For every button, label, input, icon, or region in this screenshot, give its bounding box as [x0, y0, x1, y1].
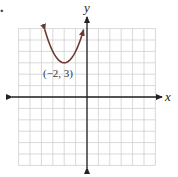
y-axis-label: y: [82, 0, 90, 15]
coordinate-graph: . x y (−2, 3): [0, 0, 178, 177]
x-axis-label: x: [164, 89, 171, 104]
problem-bullet: .: [0, 0, 4, 15]
vertex-label: (−2, 3): [43, 67, 73, 80]
